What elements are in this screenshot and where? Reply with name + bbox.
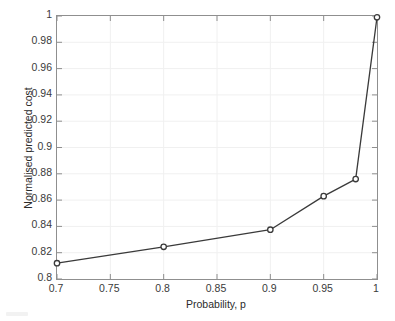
x-axis-title: Probability, p: [56, 298, 376, 310]
x-axis-tick-label: 0.8: [155, 282, 170, 294]
x-axis-tick-label: 0.7: [49, 282, 64, 294]
figure-canvas: 0.80.820.840.860.880.90.920.940.960.981 …: [0, 0, 395, 321]
x-axis-tick-label: 0.9: [262, 282, 277, 294]
data-series-line: [57, 16, 377, 279]
x-axis-tick-label: 1: [373, 282, 379, 294]
data-point-marker: [268, 227, 273, 232]
data-point-marker: [161, 244, 166, 249]
x-axis-tick-label: 0.75: [99, 282, 119, 294]
x-axis-tick-label: 0.85: [206, 282, 226, 294]
data-point-marker: [353, 176, 358, 181]
series-polyline: [57, 17, 377, 263]
plot-area: [56, 15, 378, 280]
data-point-marker: [321, 193, 326, 198]
data-point-marker: [374, 15, 379, 20]
data-point-marker: [54, 261, 59, 266]
y-axis-title: Normalised predicted cost: [22, 58, 34, 238]
x-axis-tick-label: 0.95: [312, 282, 332, 294]
scan-artifact: [6, 312, 28, 316]
